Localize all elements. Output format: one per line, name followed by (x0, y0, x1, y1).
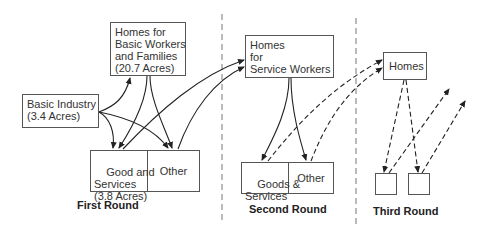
first-round-other-label: Other (160, 165, 188, 177)
basic-industry-box: Basic Industry (3.4 Acres) (22, 94, 99, 128)
second-round-arrows (262, 78, 306, 160)
third-round-box-1 (375, 173, 397, 195)
basic-industry-label: Basic Industry (3.4 Acres) (27, 98, 96, 122)
homes-service-workers-box: Homes for Service Workers (245, 35, 334, 78)
first-round-label: First Round (77, 199, 139, 211)
homes-basic-workers-label: Homes for Basic Workers and Families (20… (115, 26, 186, 74)
third-round-label: Third Round (373, 205, 438, 217)
homes-basic-workers-box: Homes for Basic Workers and Families (20… (110, 22, 186, 76)
second-round-label: Second Round (249, 203, 327, 215)
first-round-goods-services-cell: Good and Services (3.8 Acres) (91, 151, 148, 191)
homes-service-workers-label: Homes for Service Workers (250, 39, 330, 75)
second-round-other-label: Other (297, 172, 325, 184)
first-round-goods-other-box: Good and Services (3.8 Acres) Other (90, 150, 200, 192)
second-round-goods-services-cell: Goods & Services (242, 163, 289, 193)
third-round-box-2 (408, 173, 430, 195)
third-round-homes-label: Homes (389, 60, 424, 72)
third-round-homes-box: Homes (383, 52, 427, 80)
first-round-other-cell: Other (148, 151, 199, 191)
second-round-other-cell: Other (289, 163, 333, 193)
first-round-goods-services-label: Good and Services (3.8 Acres) (94, 166, 155, 202)
second-round-goods-other-box: Goods & Services Other (241, 162, 334, 194)
third-round-dashed-arrows (384, 80, 465, 173)
